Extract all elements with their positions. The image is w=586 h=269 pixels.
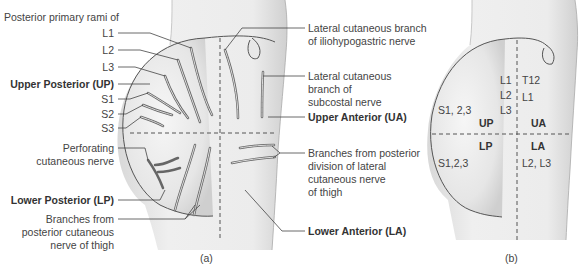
b-up-l1: L1 — [500, 74, 512, 86]
label-lower-posterior: Lower Posterior (LP) — [11, 194, 114, 207]
label-lat-cut-1: Branches from posterior — [308, 147, 420, 160]
label-post-cut-1: Branches from — [46, 213, 114, 226]
label-perforating-2: cutaneous nerve — [36, 155, 114, 168]
label-posterior-primary-rami: Posterior primary rami of — [4, 11, 119, 24]
b-ua-l1: L1 — [522, 91, 534, 103]
label-l3: L3 — [102, 61, 114, 74]
label-s2: S2 — [101, 108, 114, 121]
figure-a-body — [117, 0, 305, 250]
b-up-l2: L2 — [500, 89, 512, 101]
b-up-sacral: S1, 2,3 — [438, 104, 471, 116]
b-quadrant-ua: UA — [531, 117, 546, 129]
label-lat-cut-2: division of lateral — [308, 160, 386, 173]
label-l2: L2 — [102, 44, 114, 57]
label-subcostal-3: subcostal nerve — [308, 96, 382, 109]
figure-b-body — [427, 0, 577, 240]
b-up-l3: L3 — [500, 104, 512, 116]
label-iliohypogastric-2: of iliohypogastric nerve — [308, 35, 415, 48]
label-lat-cut-4: of thigh — [308, 186, 342, 199]
label-subcostal-2: branch of — [308, 83, 352, 96]
caption-b: (b) — [505, 252, 518, 265]
label-s1: S1 — [101, 93, 114, 106]
label-perforating-1: Perforating — [63, 142, 114, 155]
b-quadrant-lp: LP — [479, 140, 492, 152]
label-lower-anterior: Lower Anterior (LA) — [308, 225, 406, 238]
label-subcostal-1: Lateral cutaneous — [308, 70, 391, 83]
label-upper-posterior: Upper Posterior (UP) — [10, 78, 114, 91]
b-la-lumbar: L2, L3 — [522, 157, 551, 169]
label-l1: L1 — [102, 27, 114, 40]
b-quadrant-la: LA — [531, 140, 545, 152]
label-post-cut-3: nerve of thigh — [50, 239, 114, 252]
b-ua-t12: T12 — [522, 74, 540, 86]
b-quadrant-up: UP — [479, 117, 494, 129]
label-upper-anterior: Upper Anterior (UA) — [308, 111, 407, 124]
label-s3: S3 — [101, 122, 114, 135]
b-lp-sacral: S1,2,3 — [438, 157, 468, 169]
label-iliohypogastric-1: Lateral cutaneous branch — [308, 22, 427, 35]
label-post-cut-2: posterior cutaneous — [22, 226, 114, 239]
label-lat-cut-3: cutaneous nerve — [308, 173, 386, 186]
caption-a: (a) — [200, 252, 213, 265]
